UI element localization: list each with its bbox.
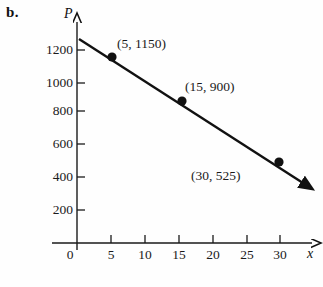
x-tick-label: 15 — [172, 247, 186, 263]
data-series-line — [79, 39, 303, 183]
y-tick-label: 1200 — [46, 42, 73, 58]
data-point-annotation: (30, 525) — [191, 168, 241, 184]
y-tick-label: 400 — [53, 169, 73, 185]
x-tick-label: 20 — [206, 247, 220, 263]
data-point-marker — [274, 157, 283, 166]
data-point-annotation: (5, 1150) — [117, 36, 166, 52]
y-tick-label: 600 — [53, 136, 73, 152]
x-axis-ticks — [111, 235, 280, 243]
x-tick-label: 30 — [273, 247, 287, 263]
data-point-marker — [177, 96, 186, 105]
y-tick-label: 1000 — [46, 75, 73, 91]
y-axis-label: P — [64, 6, 73, 22]
part-label: b. — [6, 4, 19, 21]
x-axis-label: x — [307, 246, 313, 262]
x-tick-label: 0 — [67, 247, 74, 263]
y-tick-label: 800 — [53, 103, 73, 119]
y-axis — [77, 22, 85, 250]
x-tick-label: 10 — [138, 247, 152, 263]
x-axis — [52, 235, 312, 243]
y-tick-label: 200 — [53, 202, 73, 218]
figure-container: b. — [0, 0, 323, 287]
data-point-marker — [107, 52, 116, 61]
x-tick-label: 5 — [108, 247, 115, 263]
y-axis-ticks — [77, 50, 85, 210]
x-tick-label: 25 — [240, 247, 254, 263]
data-point-annotation: (15, 900) — [185, 79, 235, 95]
